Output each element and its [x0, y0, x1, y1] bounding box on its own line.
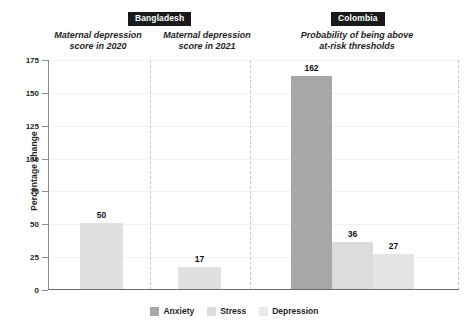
y-axis-tick — [42, 93, 48, 94]
gridline — [48, 126, 459, 127]
bar-colombia-stress[interactable] — [332, 242, 373, 289]
bar-value-label: 17 — [195, 254, 204, 264]
panel-divider — [250, 60, 251, 290]
legend-label: Anxiety — [163, 306, 194, 316]
bar-bangladesh-2021-depression[interactable] — [178, 267, 221, 289]
panel-subtitle-bangladesh-2021: Maternal depression score in 2021 — [147, 30, 267, 52]
panel-divider — [150, 60, 151, 290]
legend-item-stress[interactable]: Stress — [207, 306, 246, 316]
legend-label: Depression — [272, 306, 318, 316]
y-axis-tick — [42, 159, 48, 160]
panel-subtitle-colombia-thresholds: Probability of being above at-risk thres… — [288, 30, 426, 52]
bar-bangladesh-2020-depression[interactable] — [80, 223, 123, 289]
y-axis-label: 75 — [30, 187, 39, 196]
gridline — [48, 93, 459, 94]
bar-colombia-depression[interactable] — [373, 254, 414, 290]
legend-swatch-icon — [259, 307, 268, 316]
gridline — [48, 159, 459, 160]
gridline — [48, 60, 459, 61]
legend-item-depression[interactable]: Depression — [259, 306, 318, 316]
bar-value-label: 162 — [304, 63, 318, 73]
chart-root: Bangladesh Colombia Maternal depression … — [0, 0, 469, 333]
legend-label: Stress — [220, 306, 246, 316]
bar-value-label: 27 — [389, 241, 398, 251]
y-axis-label: 50 — [30, 220, 39, 229]
panel-divider — [458, 60, 459, 290]
y-axis-label: 25 — [30, 253, 39, 262]
x-axis-line — [48, 289, 459, 291]
y-axis-tick — [42, 257, 48, 258]
plot-area: Percentage change 175 150 125 100 75 50 … — [48, 60, 459, 290]
chart-legend: Anxiety Stress Depression — [0, 306, 469, 316]
y-axis-title: Percentage change — [29, 131, 39, 211]
y-axis-line — [48, 60, 49, 290]
y-axis-tick — [42, 224, 48, 225]
legend-swatch-icon — [150, 307, 159, 316]
y-axis-label: 150 — [26, 88, 39, 97]
y-axis-tick — [42, 126, 48, 127]
y-axis-label: 125 — [26, 121, 39, 130]
panel-subtitle-bangladesh-2020: Maternal depression score in 2020 — [38, 30, 158, 52]
y-axis-tick — [42, 191, 48, 192]
y-axis-label: 175 — [26, 56, 39, 65]
bar-value-label: 50 — [97, 210, 106, 220]
legend-item-anxiety[interactable]: Anxiety — [150, 306, 194, 316]
gridline — [48, 191, 459, 192]
bar-colombia-anxiety[interactable] — [291, 76, 332, 289]
bar-value-label: 36 — [348, 229, 357, 239]
y-axis-label: 0 — [35, 286, 39, 295]
y-axis-label: 100 — [26, 154, 39, 163]
legend-swatch-icon — [207, 307, 216, 316]
y-axis-tick — [42, 290, 48, 291]
group-tag-colombia: Colombia — [331, 12, 385, 26]
group-tag-bangladesh: Bangladesh — [128, 12, 191, 26]
y-axis-tick — [42, 60, 48, 61]
